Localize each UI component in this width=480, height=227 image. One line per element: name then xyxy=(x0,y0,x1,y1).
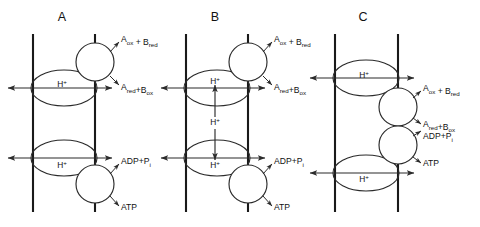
panel-a-redox-substrate-out-arrow xyxy=(110,76,119,85)
panel-a-redox-substrate-in-label: Aox + Bred xyxy=(121,34,158,48)
panel-a: AH+H+Aox + BredAred+BoxADP+PiATP xyxy=(8,10,158,212)
panel-b-lower-proton-loop-proton-label: H+ xyxy=(210,158,220,170)
panel-c-atp-out-arrow xyxy=(413,157,421,163)
panel-b-letter: B xyxy=(211,10,219,24)
panel-a-adp-pi-in-arrow xyxy=(110,164,119,174)
panel-c-redox-complex xyxy=(379,88,417,126)
panel-c-redox-substrate-in-arrow xyxy=(413,91,421,98)
panel-a-atp-synthase-complex xyxy=(76,165,114,203)
panel-b-redox-complex xyxy=(229,43,267,81)
panels-group: AH+H+Aox + BredAred+BoxADP+PiATPBH+H+H+A… xyxy=(8,10,460,212)
panel-a-atp-out-label: ATP xyxy=(121,202,137,212)
panel-a-redox-complex xyxy=(76,43,114,81)
panel-b-redox-substrate-out-arrow xyxy=(263,76,272,85)
panel-c-atp-out-label: ATP xyxy=(423,158,439,168)
panel-c-adp-pi-in-arrow xyxy=(413,131,421,136)
panel-a-letter: A xyxy=(58,10,67,24)
panel-b-atp-synthase-complex xyxy=(229,165,267,203)
panel-a-adp-pi-in-label: ADP+Pi xyxy=(121,156,151,167)
panel-c-letter: C xyxy=(358,10,367,24)
figure-root: AH+H+Aox + BredAred+BoxADP+PiATPBH+H+H+A… xyxy=(0,0,480,227)
panel-a-redox-substrate-in-arrow xyxy=(110,42,119,52)
panel-b-atp-out-label: ATP xyxy=(274,202,290,212)
panel-c: CH+H+Aox + BredAred+BoxADP+PiATP xyxy=(310,10,460,212)
panel-c-redox-substrate-out-arrow xyxy=(413,118,421,124)
panel-b-redox-substrate-in-label: Aox + Bred xyxy=(274,34,311,48)
panel-b: BH+H+H+Aox + BredAred+BoxADP+PiATP xyxy=(161,10,311,212)
panel-b-adp-pi-in-label: ADP+Pi xyxy=(274,156,304,167)
panel-a-lower-proton-loop-proton-label: H+ xyxy=(57,158,67,170)
panel-a-atp-out-arrow xyxy=(110,196,119,206)
panel-c-adp-pi-in-label: ADP+Pi xyxy=(423,131,453,142)
panel-b-upper-proton-loop-proton-label: H+ xyxy=(210,74,220,86)
panel-b-adp-pi-in-arrow xyxy=(263,164,272,174)
panel-c-redox-substrate-in-label: Aox + Bred xyxy=(423,83,460,97)
panel-b-redox-substrate-out-label: Ared+Box xyxy=(274,82,307,96)
panel-a-redox-substrate-out-label: Ared+Box xyxy=(121,82,154,96)
panel-b-redox-substrate-in-arrow xyxy=(263,42,272,52)
panel-b-atp-out-arrow xyxy=(263,196,272,206)
chemiosmosis-diagram: AH+H+Aox + BredAred+BoxADP+PiATPBH+H+H+A… xyxy=(0,0,480,227)
panel-c-lower-proton-loop-proton-label: H+ xyxy=(359,172,369,184)
panel-c-atp-synthase-complex xyxy=(379,126,417,164)
